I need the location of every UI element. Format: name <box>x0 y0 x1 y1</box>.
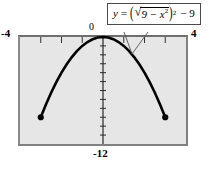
x-max-label: 4 <box>191 28 197 39</box>
equation-paren-exponent: 2 <box>173 10 177 17</box>
x-min-label: -4 <box>1 28 10 39</box>
equation-callout-box: y = ( √ 9 − x2 )2 − 9 <box>107 3 201 25</box>
endpoint-dot-left <box>38 114 44 120</box>
equation-trailing-term: − 9 <box>180 8 194 19</box>
graph-figure: -4 4 0 -12 y = ( √ 9 − x2 )2 − 9 <box>0 0 218 170</box>
y-max-label: 0 <box>89 22 94 32</box>
equation-y-variable: y <box>113 8 118 19</box>
radicand-exponent: 2 <box>165 7 169 15</box>
radicand-text: 9 − x <box>141 8 164 20</box>
plot-svg-layer <box>0 0 218 170</box>
equation-equals-sign: = <box>121 8 127 19</box>
callout-leader-line-2 <box>132 32 148 54</box>
equation-expression: y = ( √ 9 − x2 )2 − 9 <box>113 7 195 20</box>
equation-radical: √ 9 − x2 <box>134 7 169 20</box>
equation-close-paren: ) <box>169 8 173 18</box>
equation-radicand: 9 − x2 <box>140 7 169 20</box>
y-min-label: -12 <box>93 148 108 159</box>
endpoint-dot-right <box>162 114 168 120</box>
